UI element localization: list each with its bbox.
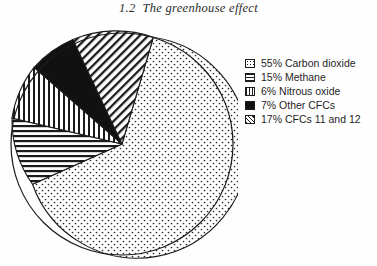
legend: 55% Carbon dioxide 15% Methane 6% Nitrou…: [245, 56, 377, 126]
legend-label-methane: 15% Methane: [261, 70, 326, 84]
legend-item-carbon-dioxide: 55% Carbon dioxide: [245, 56, 377, 70]
legend-label-other-cfcs: 7% Other CFCs: [261, 98, 335, 112]
solid-black-swatch-icon: [245, 101, 255, 110]
legend-item-methane: 15% Methane: [245, 70, 377, 84]
legend-label-cfcs-11-and-12: 17% CFCs 11 and 12: [261, 112, 361, 126]
legend-item-cfcs-11-and-12: 17% CFCs 11 and 12: [245, 112, 377, 126]
pie-chart-svg: [8, 30, 238, 260]
figure-title: 1.2 The greenhouse effect: [0, 1, 377, 16]
legend-label-carbon-dioxide: 55% Carbon dioxide: [261, 56, 356, 70]
figure-greenhouse-effect: 1.2 The greenhouse effect: [0, 0, 377, 266]
dots-swatch-icon: [245, 59, 255, 68]
horizontal-lines-swatch-icon: [245, 73, 255, 82]
legend-item-nitrous-oxide: 6% Nitrous oxide: [245, 84, 377, 98]
diagonal-hatch-swatch-icon: [245, 115, 255, 124]
vertical-lines-swatch-icon: [245, 87, 255, 96]
legend-label-nitrous-oxide: 6% Nitrous oxide: [261, 84, 340, 98]
legend-item-other-cfcs: 7% Other CFCs: [245, 98, 377, 112]
pie-chart: [8, 30, 238, 260]
